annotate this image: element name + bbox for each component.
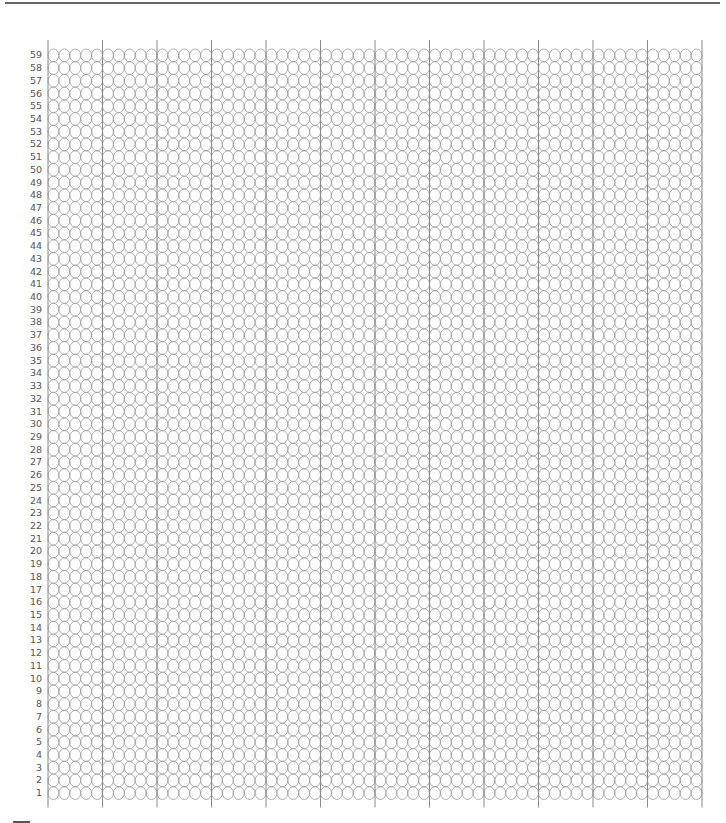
bubble-cell[interactable] bbox=[81, 265, 92, 278]
bubble-cell[interactable] bbox=[571, 138, 582, 151]
bubble-cell[interactable] bbox=[222, 202, 233, 215]
bubble-cell[interactable] bbox=[244, 240, 255, 253]
bubble-cell[interactable] bbox=[517, 571, 528, 584]
bubble-cell[interactable] bbox=[517, 710, 528, 723]
bubble-cell[interactable] bbox=[386, 761, 397, 774]
bubble-cell[interactable] bbox=[157, 265, 168, 278]
bubble-cell[interactable] bbox=[48, 303, 59, 316]
bubble-cell[interactable] bbox=[70, 265, 81, 278]
bubble-cell[interactable] bbox=[495, 698, 506, 711]
bubble-cell[interactable] bbox=[397, 787, 408, 800]
bubble-cell[interactable] bbox=[637, 176, 648, 189]
bubble-cell[interactable] bbox=[637, 329, 648, 342]
bubble-cell[interactable] bbox=[637, 405, 648, 418]
bubble-cell[interactable] bbox=[419, 163, 430, 176]
bubble-cell[interactable] bbox=[648, 723, 659, 736]
bubble-cell[interactable] bbox=[669, 405, 680, 418]
bubble-cell[interactable] bbox=[81, 163, 92, 176]
bubble-cell[interactable] bbox=[157, 138, 168, 151]
bubble-cell[interactable] bbox=[440, 520, 451, 533]
bubble-cell[interactable] bbox=[615, 609, 626, 622]
bubble-cell[interactable] bbox=[658, 787, 669, 800]
bubble-cell[interactable] bbox=[59, 418, 70, 431]
bubble-cell[interactable] bbox=[364, 278, 375, 291]
bubble-cell[interactable] bbox=[321, 647, 332, 660]
bubble-cell[interactable] bbox=[233, 202, 244, 215]
bubble-cell[interactable] bbox=[560, 520, 571, 533]
bubble-cell[interactable] bbox=[549, 507, 560, 520]
bubble-cell[interactable] bbox=[277, 520, 288, 533]
bubble-cell[interactable] bbox=[103, 163, 114, 176]
bubble-cell[interactable] bbox=[233, 87, 244, 100]
bubble-cell[interactable] bbox=[244, 583, 255, 596]
bubble-cell[interactable] bbox=[506, 62, 517, 75]
bubble-cell[interactable] bbox=[637, 494, 648, 507]
bubble-cell[interactable] bbox=[440, 87, 451, 100]
bubble-cell[interactable] bbox=[190, 723, 201, 736]
bubble-cell[interactable] bbox=[353, 113, 364, 126]
bubble-cell[interactable] bbox=[113, 774, 124, 787]
bubble-cell[interactable] bbox=[364, 392, 375, 405]
bubble-cell[interactable] bbox=[462, 431, 473, 444]
bubble-cell[interactable] bbox=[179, 596, 190, 609]
bubble-cell[interactable] bbox=[658, 698, 669, 711]
bubble-cell[interactable] bbox=[462, 74, 473, 87]
bubble-cell[interactable] bbox=[92, 774, 103, 787]
bubble-cell[interactable] bbox=[135, 685, 146, 698]
bubble-cell[interactable] bbox=[233, 214, 244, 227]
bubble-cell[interactable] bbox=[103, 761, 114, 774]
bubble-cell[interactable] bbox=[658, 342, 669, 355]
bubble-cell[interactable] bbox=[528, 303, 539, 316]
bubble-cell[interactable] bbox=[506, 545, 517, 558]
bubble-cell[interactable] bbox=[113, 214, 124, 227]
bubble-cell[interactable] bbox=[70, 647, 81, 660]
bubble-cell[interactable] bbox=[462, 723, 473, 736]
bubble-cell[interactable] bbox=[113, 265, 124, 278]
bubble-cell[interactable] bbox=[669, 736, 680, 749]
bubble-cell[interactable] bbox=[637, 354, 648, 367]
bubble-cell[interactable] bbox=[113, 418, 124, 431]
bubble-cell[interactable] bbox=[604, 100, 615, 113]
bubble-cell[interactable] bbox=[593, 100, 604, 113]
bubble-cell[interactable] bbox=[168, 761, 179, 774]
bubble-cell[interactable] bbox=[604, 749, 615, 762]
bubble-cell[interactable] bbox=[124, 227, 135, 240]
bubble-cell[interactable] bbox=[48, 253, 59, 266]
bubble-cell[interactable] bbox=[179, 545, 190, 558]
bubble-cell[interactable] bbox=[364, 265, 375, 278]
bubble-cell[interactable] bbox=[124, 456, 135, 469]
bubble-cell[interactable] bbox=[59, 316, 70, 329]
bubble-cell[interactable] bbox=[451, 456, 462, 469]
bubble-cell[interactable] bbox=[342, 698, 353, 711]
bubble-cell[interactable] bbox=[277, 138, 288, 151]
bubble-cell[interactable] bbox=[157, 596, 168, 609]
bubble-cell[interactable] bbox=[103, 113, 114, 126]
bubble-cell[interactable] bbox=[539, 520, 550, 533]
bubble-cell[interactable] bbox=[593, 367, 604, 380]
bubble-cell[interactable] bbox=[201, 189, 212, 202]
bubble-cell[interactable] bbox=[397, 316, 408, 329]
bubble-cell[interactable] bbox=[549, 787, 560, 800]
bubble-cell[interactable] bbox=[495, 621, 506, 634]
bubble-cell[interactable] bbox=[386, 558, 397, 571]
bubble-cell[interactable] bbox=[440, 710, 451, 723]
bubble-cell[interactable] bbox=[658, 176, 669, 189]
bubble-cell[interactable] bbox=[157, 354, 168, 367]
bubble-cell[interactable] bbox=[528, 698, 539, 711]
bubble-cell[interactable] bbox=[157, 380, 168, 393]
bubble-cell[interactable] bbox=[680, 138, 691, 151]
bubble-cell[interactable] bbox=[408, 265, 419, 278]
bubble-cell[interactable] bbox=[506, 710, 517, 723]
bubble-cell[interactable] bbox=[212, 291, 223, 304]
bubble-cell[interactable] bbox=[157, 787, 168, 800]
bubble-cell[interactable] bbox=[637, 787, 648, 800]
bubble-cell[interactable] bbox=[397, 520, 408, 533]
bubble-cell[interactable] bbox=[190, 329, 201, 342]
bubble-cell[interactable] bbox=[691, 367, 702, 380]
bubble-cell[interactable] bbox=[124, 736, 135, 749]
bubble-cell[interactable] bbox=[560, 749, 571, 762]
bubble-cell[interactable] bbox=[473, 685, 484, 698]
bubble-cell[interactable] bbox=[157, 672, 168, 685]
bubble-cell[interactable] bbox=[331, 176, 342, 189]
bubble-cell[interactable] bbox=[473, 583, 484, 596]
